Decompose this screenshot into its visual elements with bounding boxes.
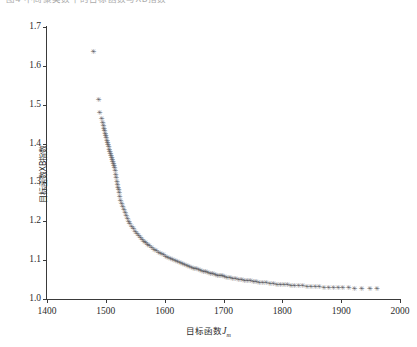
scatter-point: ✳ (102, 129, 107, 134)
scatter-point: ✳ (143, 241, 148, 246)
scatter-point: ✳ (184, 264, 189, 269)
x-tick-label: 1500 (96, 305, 115, 318)
x-tick-label: 1800 (273, 305, 292, 318)
x-tick-mark (106, 299, 107, 303)
figure-container: 图4 不同聚类数下的目标函数与XB指数 目标函数XB指数 目标函数Jm 1.01… (0, 0, 417, 347)
scatter-point: ✳ (141, 240, 146, 245)
scatter-point: ✳ (109, 158, 114, 163)
y-tick-label: 1.4 (29, 137, 41, 150)
scatter-point: ✳ (107, 152, 112, 157)
scatter-point: ✳ (139, 238, 144, 243)
scatter-point: ✳ (222, 275, 227, 280)
scatter-point: ✳ (115, 186, 120, 191)
scatter-point: ✳ (219, 274, 224, 279)
scatter-point: ✳ (158, 252, 163, 257)
scatter-point: ✳ (146, 244, 151, 249)
y-tick-label: 1.6 (29, 59, 41, 72)
scatter-point: ✳ (103, 136, 108, 141)
scatter-point: ✳ (191, 267, 196, 272)
scatter-point: ✳ (233, 277, 238, 282)
scatter-point: ✳ (198, 269, 203, 274)
scatter-point: ✳ (105, 143, 110, 148)
scatter-marker-layer: ✳✳✳✳✳✳✳✳✳✳✳✳✳✳✳✳✳✳✳✳✳✳✳✳✳✳✳✳✳✳✳✳✳✳✳✳✳✳✳✳… (47, 27, 400, 299)
scatter-point: ✳ (182, 263, 187, 268)
scatter-point: ✳ (288, 284, 293, 289)
scatter-point: ✳ (196, 268, 201, 273)
scatter-point: ✳ (189, 266, 194, 271)
x-tick-label: 2000 (391, 305, 410, 318)
scatter-point: ✳ (239, 278, 244, 283)
x-axis-title-main: 目标函数 (186, 326, 222, 336)
y-tick-label: 1.5 (29, 98, 41, 111)
scatter-point: ✳ (122, 211, 127, 216)
scatter-point: ✳ (224, 276, 229, 281)
scatter-point: ✳ (274, 283, 279, 288)
scatter-point: ✳ (359, 287, 364, 292)
scatter-point: ✳ (352, 287, 357, 292)
x-tick-label: 1900 (332, 305, 351, 318)
scatter-point: ✳ (102, 132, 107, 137)
scatter-point: ✳ (100, 124, 105, 129)
scatter-point: ✳ (316, 285, 321, 290)
scatter-point: ✳ (101, 127, 106, 132)
scatter-point: ✳ (217, 274, 222, 279)
scatter-point: ✳ (296, 284, 301, 289)
scatter-point: ✳ (96, 98, 101, 103)
scatter-point: ✳ (236, 278, 241, 283)
scatter-point: ✳ (114, 180, 119, 185)
scatter-point: ✳ (116, 191, 121, 196)
figure-caption-text: 图4 不同聚类数下的目标函数与XB指数 (6, 0, 166, 4)
y-tick-label: 1.2 (29, 214, 41, 227)
scatter-point: ✳ (134, 232, 139, 237)
scatter-point: ✳ (111, 164, 116, 169)
scatter-point: ✳ (285, 283, 290, 288)
x-tick: 1700 (224, 299, 225, 300)
plot-area: 1.01.11.21.31.41.51.61.7 140015001600170… (47, 27, 400, 299)
x-tick-mark (400, 299, 401, 303)
scatter-point: ✳ (136, 234, 141, 239)
scatter-point: ✳ (172, 259, 177, 264)
scatter-point: ✳ (104, 139, 109, 144)
scatter-point: ✳ (330, 286, 335, 291)
scatter-point: ✳ (119, 202, 124, 207)
scatter-point: ✳ (270, 282, 275, 287)
scatter-point: ✳ (212, 273, 217, 278)
scatter-point: ✳ (151, 248, 156, 253)
scatter-point: ✳ (163, 255, 168, 260)
scatter-point: ✳ (116, 188, 121, 193)
scatter-point: ✳ (113, 173, 118, 178)
x-tick-label: 1400 (38, 305, 57, 318)
scatter-point: ✳ (130, 227, 135, 232)
scatter-point: ✳ (106, 145, 111, 150)
scatter-point: ✳ (112, 169, 117, 174)
scatter-point: ✳ (107, 150, 112, 155)
x-tick: 1500 (106, 299, 107, 300)
scatter-point: ✳ (346, 286, 351, 291)
scatter-point: ✳ (149, 246, 154, 251)
x-tick-mark (165, 299, 166, 303)
scatter-point: ✳ (113, 176, 118, 181)
scatter-point: ✳ (90, 50, 95, 55)
scatter-point: ✳ (170, 258, 175, 263)
scatter-point: ✳ (120, 205, 125, 210)
x-axis-title: 目标函数Jm (0, 325, 417, 341)
x-tick: 1800 (282, 299, 283, 300)
x-axis-title-subscript: m (226, 332, 230, 338)
scatter-point: ✳ (156, 251, 161, 256)
y-tick-label: 1.7 (29, 20, 41, 33)
scatter-point: ✳ (132, 230, 137, 235)
scatter-point: ✳ (326, 286, 331, 291)
scatter-point: ✳ (186, 265, 191, 270)
scatter-point: ✳ (126, 220, 131, 225)
scatter-point: ✳ (100, 121, 105, 126)
figure-caption-strip: 图4 不同聚类数下的目标函数与XB指数 (0, 0, 417, 9)
scatter-point: ✳ (242, 279, 247, 284)
x-tick-label: 1600 (155, 305, 174, 318)
scatter-point: ✳ (374, 287, 379, 292)
scatter-point: ✳ (203, 270, 208, 275)
scatter-point: ✳ (193, 267, 198, 272)
scatter-point: ✳ (312, 285, 317, 290)
scatter-point: ✳ (106, 148, 111, 153)
scatter-point: ✳ (200, 270, 205, 275)
x-tick-label: 1700 (214, 305, 233, 318)
